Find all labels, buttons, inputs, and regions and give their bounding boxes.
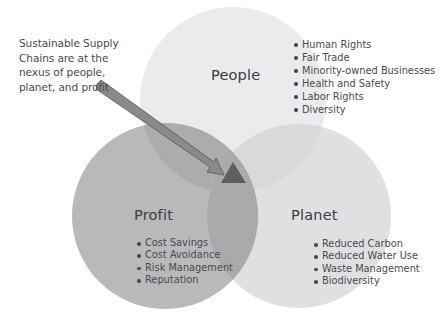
planet-list: Reduced Carbon Reduced Water Use Waste M…: [314, 238, 420, 288]
list-item: Reputation: [137, 274, 233, 286]
list-item: Reduced Water Use: [314, 250, 420, 262]
callout-text: Sustainable Supply Chains are at the nex…: [19, 36, 129, 94]
profit-list: Cost Savings Cost Avoidance Risk Managem…: [137, 237, 233, 287]
planet-title: Planet: [291, 207, 338, 223]
people-list: Human Rights Fair Trade Minority-owned B…: [294, 38, 435, 116]
callout-line: Sustainable Supply: [19, 36, 129, 51]
list-item: Fair Trade: [294, 51, 435, 64]
list-item: Minority-owned Businesses: [294, 64, 435, 77]
callout-line: Chains are at the: [19, 51, 129, 66]
list-item: Cost Avoidance: [137, 249, 233, 261]
list-item: Reduced Carbon: [314, 238, 420, 250]
list-item: Cost Savings: [137, 237, 233, 249]
list-item: Risk Management: [137, 262, 233, 274]
list-item: Biodiversity: [314, 275, 420, 287]
list-item: Human Rights: [294, 38, 435, 51]
callout-line: planet, and profit: [19, 80, 129, 95]
list-item: Diversity: [294, 103, 435, 116]
list-item: Waste Management: [314, 263, 420, 275]
profit-title: Profit: [134, 207, 173, 223]
people-title: People: [211, 67, 260, 83]
callout-line: nexus of people,: [19, 65, 129, 80]
list-item: Health and Safety: [294, 77, 435, 90]
list-item: Labor Rights: [294, 90, 435, 103]
